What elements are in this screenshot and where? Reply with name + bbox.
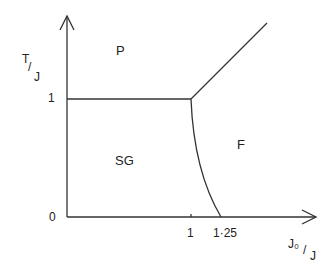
f-p-boundary [191,23,267,99]
sg-f-boundary [191,99,221,217]
y-axis-label: T / J [22,52,46,88]
y-tick-label-0: 0 [49,210,56,224]
y-axis-label-denominator: J [34,70,40,84]
x-axis-label: J₀ / J [288,237,324,267]
x-axis-label-denominator: J [310,249,316,263]
region-label-p: P [116,43,125,58]
x-tick-label-1-25: 1·25 [213,226,237,240]
region-label-f: F [237,137,245,152]
y-axis-label-slash: / [28,60,31,74]
x-axis-label-numerator: J₀ [288,237,299,251]
x-tick-label-1: 1 [187,226,194,240]
region-label-sg: SG [115,153,134,168]
x-axis-label-slash: / [303,243,306,257]
phase-diagram-canvas [0,0,332,269]
y-tick-label-1: 1 [48,91,55,105]
